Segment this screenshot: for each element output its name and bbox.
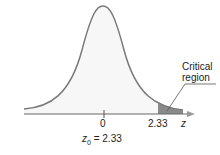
critical-label-2: region xyxy=(182,72,210,83)
critical-label-1: Critical xyxy=(182,61,213,72)
axis-arrow xyxy=(187,111,195,117)
leader-line xyxy=(167,84,216,111)
z0-annotation: z0 = 2.33 xyxy=(82,133,122,148)
axis-label-z: z xyxy=(181,118,186,129)
tick-label-233: 2.33 xyxy=(148,118,167,129)
z0-value: = 2.33 xyxy=(91,133,122,144)
tick-label-0: 0 xyxy=(100,118,106,129)
curve-fill xyxy=(24,6,183,114)
